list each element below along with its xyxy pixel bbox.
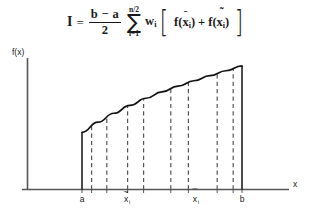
term2-variable: x [217, 15, 223, 29]
formula-term-2: f(̃xi) [208, 15, 229, 29]
formula-lhs: I [67, 15, 72, 29]
bracket-open: [ [160, 10, 168, 33]
term2-paren-close: ) [225, 15, 229, 29]
term2-accented-variable: ̃x [217, 15, 223, 30]
function-curve [82, 66, 242, 132]
y-axis-label: f(x) [12, 47, 24, 57]
summation-operator: n/2 ∑ i=1 [127, 6, 141, 37]
weight-term: wi [145, 15, 156, 29]
tick-label-text: a [80, 194, 85, 204]
bracket-contents: f(̄xi)+f(̃xi) [170, 15, 233, 30]
tick-label-accent: ~ [124, 187, 129, 197]
function-plot: f(x) x ax~ix¯ib [0, 44, 311, 221]
x-axis-label: x [293, 179, 298, 189]
formula-block: I = b − a 2 n/2 ∑ i=1 wi [ f(̄xi)+f(̃xi)… [0, 0, 311, 44]
formula-term-1: f(̄xi) [174, 15, 195, 29]
tick-label-accent: ¯ [191, 187, 197, 197]
weight-subscript: i [154, 20, 156, 29]
formula-equals-sign: = [77, 16, 84, 29]
weight-symbol: w [145, 14, 154, 28]
x-tick-label-0: a [80, 194, 85, 204]
term1-paren-close: ) [191, 15, 195, 29]
term1-accented-variable: ̄x [182, 15, 188, 30]
bracket-close: ] [235, 10, 243, 33]
tick-label-text: b [240, 194, 245, 204]
formula-fraction: b − a 2 [89, 8, 121, 36]
chart-area: f(x) x ax~ix¯ib [0, 44, 311, 221]
tick-label-subscript: i [198, 199, 199, 205]
tick-label-subscript: i [129, 199, 130, 205]
integration-formula: I = b − a 2 n/2 ∑ i=1 wi [ f(̄xi)+f(̃xi)… [0, 0, 311, 44]
fraction-denominator: 2 [100, 23, 110, 37]
term1-variable: x [182, 15, 188, 29]
formula-operator: + [198, 15, 205, 29]
quadrature-dashed-lines [92, 69, 234, 190]
summation-lower-limit: i=1 [129, 30, 139, 38]
fraction-numerator: b − a [89, 8, 121, 22]
x-tick-label-3: b [240, 194, 245, 204]
